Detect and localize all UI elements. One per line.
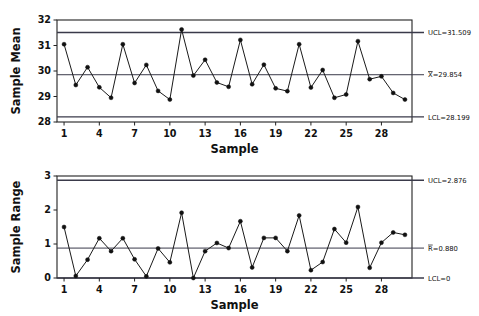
data-point [403, 98, 407, 102]
data-point [379, 74, 383, 78]
data-point [285, 89, 289, 93]
y-tick-label: 2 [44, 204, 51, 215]
x-tick-label: 28 [375, 284, 389, 295]
data-point [309, 268, 313, 272]
data-point [74, 83, 78, 87]
limit-label-center: X=29.854 [428, 71, 462, 79]
data-point [250, 265, 254, 269]
data-point [368, 77, 372, 81]
y-axis-title: Sample Mean [9, 27, 23, 114]
y-tick-label: 0 [44, 272, 51, 283]
data-point [180, 211, 184, 215]
data-point [285, 249, 289, 253]
data-point [97, 85, 101, 89]
limit-label-text: UCL=2.876 [428, 177, 467, 185]
data-point [109, 96, 113, 100]
limit-label-text: LCL=28.199 [428, 114, 470, 122]
sample-range-plot: 012314710131619222528UCL=2.876R=0.880LCL… [0, 156, 479, 316]
x-tick-label: 19 [269, 128, 283, 139]
data-point [250, 82, 254, 86]
data-point [238, 219, 242, 223]
data-point [215, 80, 219, 84]
data-point [262, 63, 266, 67]
data-point [203, 249, 207, 253]
data-point [403, 233, 407, 237]
y-tick-label: 32 [38, 14, 51, 25]
limit-label-center: R=0.880 [428, 245, 458, 253]
data-point [297, 42, 301, 46]
sample-mean-plot: 282930313214710131619222528UCL=31.509X=2… [0, 0, 479, 160]
data-point [203, 58, 207, 62]
x-tick-label: 16 [234, 128, 248, 139]
x-tick-label: 25 [339, 284, 352, 295]
data-point [191, 74, 195, 78]
data-point [332, 227, 336, 231]
limit-label-text: R=0.880 [428, 245, 458, 253]
x-tick-label: 13 [198, 128, 211, 139]
data-point [74, 274, 78, 278]
data-point [227, 246, 231, 250]
data-point [368, 266, 372, 270]
x-tick-label: 1 [61, 284, 68, 295]
plot-frame [57, 20, 412, 122]
x-tick-label: 22 [304, 284, 317, 295]
control-chart-figure: 282930313214710131619222528UCL=31.509X=2… [0, 0, 479, 316]
x-tick-label: 22 [304, 128, 317, 139]
y-tick-label: 30 [38, 65, 52, 76]
data-point [274, 86, 278, 90]
x-tick-label: 4 [96, 128, 103, 139]
x-tick-label: 7 [131, 128, 138, 139]
limit-label-ucl: UCL=2.876 [428, 177, 467, 185]
x-tick-label: 4 [96, 284, 103, 295]
x-tick-label: 28 [375, 128, 389, 139]
x-tick-label: 13 [198, 284, 211, 295]
y-axis-title: Sample Range [9, 180, 23, 273]
data-point [297, 213, 301, 217]
data-point [391, 91, 395, 95]
data-point [133, 257, 137, 261]
data-point [344, 241, 348, 245]
limit-label-lcl: LCL=0 [428, 275, 450, 283]
sample-mean-chart: 282930313214710131619222528UCL=31.509X=2… [0, 0, 479, 160]
y-tick-label: 28 [38, 116, 52, 127]
data-point [86, 258, 90, 262]
data-point [344, 92, 348, 96]
data-point [321, 260, 325, 264]
data-point [62, 42, 66, 46]
data-point [156, 89, 160, 93]
y-tick-label: 31 [38, 40, 52, 51]
data-point [156, 246, 160, 250]
sample-range-chart: 012314710131619222528UCL=2.876R=0.880LCL… [0, 156, 479, 316]
data-point [144, 63, 148, 67]
data-point [321, 68, 325, 72]
limit-label-lcl: LCL=28.199 [428, 114, 470, 122]
x-tick-label: 1 [61, 128, 68, 139]
data-point [168, 260, 172, 264]
data-point [274, 236, 278, 240]
x-tick-label: 10 [163, 284, 177, 295]
y-tick-label: 29 [38, 91, 52, 102]
data-point [309, 86, 313, 90]
data-point [144, 274, 148, 278]
data-point [238, 38, 242, 42]
x-tick-label: 25 [339, 128, 352, 139]
y-tick-label: 1 [44, 238, 51, 249]
limit-label-text: X=29.854 [428, 71, 462, 79]
x-axis-title: Sample [211, 298, 259, 312]
data-point [121, 42, 125, 46]
data-point [379, 241, 383, 245]
limit-label-text: LCL=0 [428, 275, 450, 283]
data-point [215, 241, 219, 245]
data-point [391, 230, 395, 234]
data-point [356, 39, 360, 43]
data-point [62, 225, 66, 229]
data-point [191, 276, 195, 280]
limit-label-ucl: UCL=31.509 [428, 29, 471, 37]
x-tick-label: 16 [234, 284, 248, 295]
data-point [168, 98, 172, 102]
limit-label-text: UCL=31.509 [428, 29, 471, 37]
data-point [227, 85, 231, 89]
data-point [86, 65, 90, 69]
plot-frame [57, 176, 412, 278]
data-point [133, 81, 137, 85]
